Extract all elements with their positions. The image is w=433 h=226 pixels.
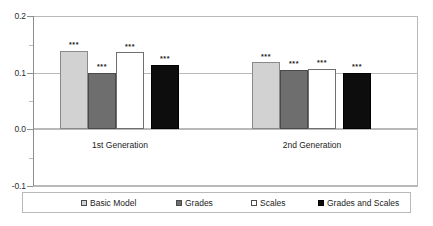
white-square-icon: [251, 200, 257, 206]
y-axis-line: [33, 16, 34, 186]
bar-chart: 0.2 0.1 0.0 -0.1 *** *** *** *** 1st Gen…: [0, 0, 433, 226]
legend-item-basic-model: Basic Model: [81, 198, 136, 208]
bar-2nd-generation-scales: [308, 69, 336, 130]
significance-1st-generation-grades: ***: [88, 63, 116, 70]
gridline-0.0: [33, 129, 418, 130]
y-axis-label-0.2: 0.2: [0, 11, 26, 21]
significance-1st-generation-grades-and-scales: ***: [151, 55, 179, 62]
legend-label-grades: Grades: [185, 198, 213, 208]
gridline-0.2: [33, 16, 418, 17]
x-axis-group-label-2nd-generation: 2nd Generation: [251, 140, 373, 150]
bar-1st-generation-scales: [116, 52, 144, 129]
y-axis-label--0.1: -0.1: [0, 181, 26, 191]
gridline--0.1: [33, 186, 418, 187]
dark-gray-square-icon: [176, 200, 182, 206]
y-tick--0.1: [27, 186, 33, 187]
legend-item-grades-and-scales: Grades and Scales: [318, 198, 399, 208]
bar-1st-generation-grades-and-scales: [151, 65, 179, 129]
significance-2nd-generation-grades-and-scales: ***: [343, 63, 371, 70]
plot-area-lower: [33, 129, 418, 186]
bar-1st-generation-grades: [88, 73, 116, 130]
legend-item-scales: Scales: [251, 198, 286, 208]
bar-1st-generation-basic-model: [60, 51, 88, 130]
y-tick-0.15: [29, 45, 33, 46]
significance-1st-generation-basic-model: ***: [60, 41, 88, 48]
x-axis-group-label-1st-generation: 1st Generation: [59, 140, 181, 150]
bar-2nd-generation-grades-and-scales: [343, 73, 371, 130]
significance-1st-generation-scales: ***: [116, 43, 144, 50]
chart-legend: Basic Model Grades Scales Grades and Sca…: [22, 192, 411, 213]
y-tick--0.05: [29, 158, 33, 159]
legend-item-grades: Grades: [176, 198, 213, 208]
bar-2nd-generation-grades: [280, 70, 308, 129]
y-axis-label-0.1: 0.1: [0, 68, 26, 78]
bar-2nd-generation-basic-model: [252, 62, 280, 129]
black-square-icon: [318, 200, 324, 206]
y-tick-0.0: [27, 129, 33, 130]
y-tick-0.1: [27, 73, 33, 74]
y-tick-0.05: [29, 101, 33, 102]
significance-2nd-generation-scales: ***: [308, 59, 336, 66]
y-axis-label-0.0: 0.0: [0, 124, 26, 134]
legend-label-basic-model: Basic Model: [90, 198, 136, 208]
light-gray-square-icon: [81, 200, 87, 206]
legend-label-grades-and-scales: Grades and Scales: [327, 198, 399, 208]
y-tick-0.2: [27, 16, 33, 17]
legend-label-scales: Scales: [260, 198, 286, 208]
significance-2nd-generation-basic-model: ***: [252, 53, 280, 60]
significance-2nd-generation-grades: ***: [280, 60, 308, 67]
